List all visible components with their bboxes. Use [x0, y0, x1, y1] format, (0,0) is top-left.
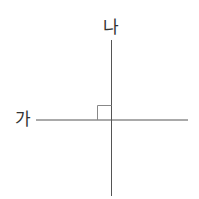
right-angle-marker [98, 106, 112, 121]
lines-canvas [0, 0, 199, 199]
vertical-line-label: 나 [103, 19, 119, 36]
horizontal-line-label: 가 [15, 111, 31, 128]
